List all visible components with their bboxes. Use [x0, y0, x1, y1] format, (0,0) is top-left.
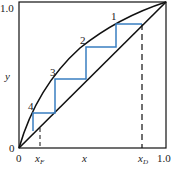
mccabe-thiele-diagram: 1 2 3 4 1.0 y 0 0 xF x xD 1.0 [0, 0, 175, 170]
xF-label: xF [34, 152, 45, 166]
stage-label-4: 4 [28, 100, 34, 112]
origin-y-label: 0 [9, 142, 15, 154]
origin-x-label: 0 [16, 152, 22, 164]
stage-label-3: 3 [50, 66, 56, 78]
operating-line [19, 2, 166, 148]
y-max-label: 1.0 [0, 2, 14, 14]
stage-label-1: 1 [111, 10, 117, 22]
x-max-label: 1.0 [157, 152, 171, 164]
xD-label: xD [137, 152, 148, 166]
x-axis-label: x [81, 152, 87, 164]
stage-label-2: 2 [80, 34, 86, 46]
y-axis-label: y [4, 70, 10, 82]
